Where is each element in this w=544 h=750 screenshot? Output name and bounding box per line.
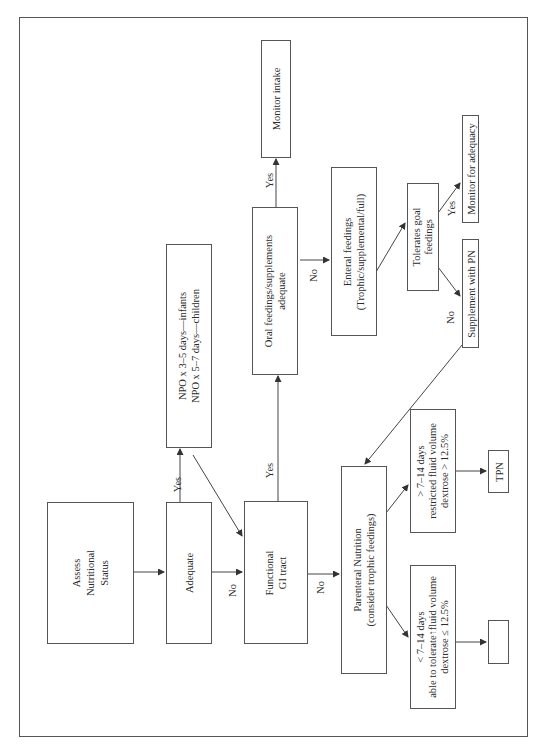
tpn-box: TPN	[488, 450, 509, 493]
parenteral-nutrition-box: Parenteral Nutrition (consider trophic f…	[341, 466, 387, 674]
node-text: NPO x 3–5 days—infants	[176, 289, 189, 403]
node-text: (consider trophic feedings)	[364, 513, 377, 626]
edge-label-gi-no: No	[315, 581, 326, 594]
functional-gi-tract-box: Functional GI tract	[244, 501, 308, 644]
tolerates-goal-feedings-box: Tolerates goal feedings	[407, 183, 439, 291]
under-7-14-days-box: < 7–14 days able to tolerate↑fluid volum…	[410, 565, 456, 709]
node-text: Supplement with PN	[464, 250, 477, 338]
edge-label-oral-no: No	[308, 269, 319, 282]
node-text: Oral feedings/supplements	[262, 235, 275, 347]
node-text: TPN	[492, 462, 505, 482]
node-text: able to tolerate↑fluid volume	[427, 576, 439, 698]
node-text: Assess	[70, 550, 84, 596]
over-7-14-days-box: > 7–14 days restricted fluid volume dext…	[410, 409, 456, 533]
node-text: Adequate	[183, 553, 196, 593]
node-text: Parenteral Nutrition	[351, 513, 364, 626]
edge-label-oral-yes: Yes	[264, 173, 275, 188]
node-text: Status	[98, 550, 112, 596]
edge-label-adequate-yes: Yes	[172, 477, 183, 492]
npo-box: NPO x 3–5 days—infants NPO x 5–7 days—ch…	[166, 244, 212, 448]
edge-label-tolerates-yes: Yes	[446, 201, 457, 216]
node-text: (Trophic/supplemental/full)	[354, 193, 367, 309]
edge-label-gi-yes: Yes	[264, 463, 275, 478]
edge-label-adequate-no: No	[227, 584, 238, 597]
node-text: Nutritional	[84, 550, 98, 596]
adequate-box: Adequate	[166, 502, 212, 644]
node-text: Tolerates goal	[411, 207, 423, 266]
node-text: < 7–14 days	[415, 576, 427, 698]
supplement-with-pn-box: Supplement with PN	[462, 239, 479, 348]
oral-feedings-box: Oral feedings/supplements adequate	[252, 207, 298, 375]
node-text: Functional	[263, 550, 276, 595]
monitor-for-adequacy-box: Monitor for adequacy	[462, 115, 479, 223]
node-text: NPO x 5–7 days—children	[189, 289, 202, 403]
node-text: GI tract	[276, 550, 289, 595]
monitor-intake-box: Monitor intake	[261, 40, 291, 158]
node-text: Monitor for adequacy	[464, 123, 477, 215]
enteral-feedings-box: Enteral feedings (Trophic/supplemental/f…	[331, 167, 377, 336]
node-text: restricted fluid volume	[427, 423, 439, 519]
node-text: > 7–14 days	[415, 423, 427, 519]
node-text: adequate	[275, 235, 288, 347]
empty-box	[488, 620, 509, 664]
node-text: feedings	[423, 207, 435, 266]
node-text: dextrose > 12.5%	[439, 423, 451, 519]
assess-nutritional-status-box: Assess Nutritional Status	[47, 502, 134, 644]
edge-label-tolerates-no: No	[445, 311, 456, 324]
node-text: Enteral feedings	[341, 193, 354, 309]
node-text: Monitor intake	[270, 68, 283, 131]
node-text: dextrose ≤ 12.5%	[439, 576, 451, 698]
